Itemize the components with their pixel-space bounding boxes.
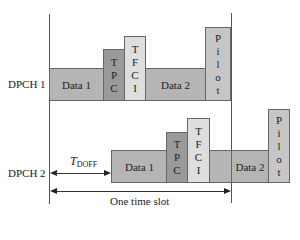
- pilot-letter: t: [277, 166, 280, 179]
- dpch1-data1-field: Data 1: [49, 68, 104, 101]
- dpch2-tpc-field: T P C: [166, 132, 188, 183]
- slot-arrow-line: [52, 191, 228, 192]
- pilot-letter: P: [276, 114, 282, 127]
- pilot-letter: o: [276, 153, 282, 166]
- tfci-letter: F: [195, 138, 201, 151]
- tpc-letter: T: [111, 56, 118, 69]
- tdoff-label: TDOFF: [70, 154, 97, 169]
- tdoff-arrow-right-icon: [104, 170, 111, 176]
- tfci-letter: T: [195, 125, 202, 138]
- tdoff-arrow-left-icon: [50, 170, 57, 176]
- pilot-letter: P: [215, 32, 221, 45]
- pilot-letter: i: [277, 127, 280, 140]
- dpch1-data2-label: Data 2: [161, 79, 190, 91]
- tdoff-main: T: [70, 154, 77, 168]
- slot-label: One time slot: [110, 195, 169, 207]
- slot-arrow-left-icon: [50, 188, 57, 194]
- dpch1-pilot-field: P i l o t: [205, 27, 231, 101]
- dpch2-data1-field: Data 1: [111, 150, 168, 183]
- tpc-letter: T: [174, 138, 181, 151]
- dpch2-data2-label: Data 2: [235, 161, 264, 173]
- tfci-letter: T: [132, 43, 139, 56]
- dpch1-tfci-field: T F C I: [124, 36, 146, 101]
- dpch1-data2-field: Data 2: [145, 68, 206, 101]
- tpc-letter: C: [110, 82, 117, 95]
- tfci-letter: I: [133, 82, 137, 95]
- dpch1-data1-label: Data 1: [62, 79, 91, 91]
- pilot-letter: i: [216, 45, 219, 58]
- tpc-letter: C: [173, 164, 180, 177]
- tdoff-arrow-line: [52, 173, 108, 174]
- tfci-letter: C: [131, 69, 138, 82]
- dpch1-tpc-field: T P C: [103, 49, 125, 101]
- dpch2-data2-field: Data 2: [231, 150, 269, 183]
- tfci-letter: C: [195, 151, 202, 164]
- dpch2-pilot-field: P i l o t: [268, 109, 290, 183]
- pilot-letter: l: [216, 58, 219, 71]
- pilot-letter: l: [277, 140, 280, 153]
- tpc-letter: P: [174, 151, 180, 164]
- dpch2-tfci-field: T F C I: [187, 118, 210, 183]
- tpc-letter: P: [111, 69, 117, 82]
- pilot-letter: t: [216, 84, 219, 97]
- dpch2-data1-label: Data 1: [125, 161, 154, 173]
- tdoff-sub: DOFF: [77, 160, 97, 169]
- tfci-letter: I: [197, 164, 201, 177]
- tfci-letter: F: [132, 56, 138, 69]
- dpch2-data1-continuation: [209, 150, 232, 183]
- channel-label-dpch2: DPCH 2: [8, 167, 46, 179]
- slot-arrow-right-icon: [224, 188, 231, 194]
- pilot-letter: o: [215, 71, 221, 84]
- channel-label-dpch1: DPCH 1: [8, 78, 46, 90]
